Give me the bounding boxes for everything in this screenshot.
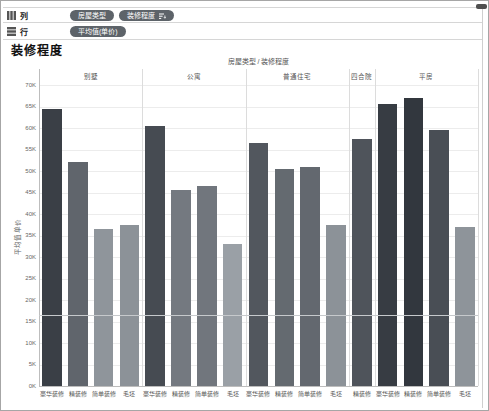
pane-divider — [142, 69, 143, 386]
pill-decoration-degree[interactable]: 装修程度 — [119, 10, 174, 21]
bar-公寓-简单装修[interactable] — [197, 186, 217, 386]
bar-别墅-毛坯[interactable] — [120, 225, 140, 386]
scrollbar-track — [482, 7, 483, 408]
pill-house-type-label: 房屋类型 — [78, 10, 106, 21]
bar-别墅-简单装修[interactable] — [94, 229, 114, 386]
x-axis-line — [39, 386, 478, 387]
pill-house-type[interactable]: 房屋类型 — [70, 10, 114, 21]
chart-column-field-labels: 房屋类型 / 装修程度 — [39, 56, 478, 66]
y-axis-line — [39, 69, 40, 386]
tableau-worksheet: 列 房屋类型 装修程度 行 平均值(单价) 装修程度 房屋类型 / 装修程度平 — [0, 0, 489, 411]
bar-普通住宅-简单装修[interactable] — [300, 167, 320, 386]
bar-平房-精装修[interactable] — [404, 98, 424, 386]
y-tick-label: 30K — [16, 254, 36, 260]
group-header-四合院: 四合院 — [349, 71, 375, 81]
pane-divider — [349, 69, 350, 386]
bar-别墅-豪华装修[interactable] — [42, 109, 62, 386]
y-tick-label: 50K — [16, 168, 36, 174]
columns-shelf-label: 列 — [20, 10, 32, 21]
bar-平房-毛坯[interactable] — [455, 227, 475, 386]
y-tick-label: 60K — [16, 125, 36, 131]
bar-别墅-精装修[interactable] — [68, 162, 88, 386]
pill-avg-unit-price[interactable]: 平均值(单价) — [70, 26, 126, 37]
scrollbar-thumb[interactable] — [476, 4, 487, 9]
y-tick-label: 70K — [16, 82, 36, 88]
pane-divider — [246, 69, 247, 386]
y-gridline — [39, 85, 478, 86]
reference-line — [39, 315, 478, 316]
x-label-毛坯: 毛坯 — [450, 389, 480, 398]
pane-divider — [375, 69, 376, 386]
y-tick-label: 40K — [16, 211, 36, 217]
pane-divider — [478, 69, 479, 386]
y-tick-label: 0K — [16, 383, 36, 389]
group-header-别墅: 别墅 — [39, 71, 142, 81]
bar-公寓-豪华装修[interactable] — [145, 126, 165, 386]
pill-decoration-degree-label: 装修程度 — [127, 10, 155, 21]
y-tick-label: 25K — [16, 275, 36, 281]
group-header-平房: 平房 — [375, 71, 478, 81]
columns-icon — [7, 11, 16, 20]
group-header-公寓: 公寓 — [142, 71, 245, 81]
rows-icon — [7, 27, 16, 36]
bar-平房-豪华装修[interactable] — [378, 104, 398, 386]
bar-普通住宅-精装修[interactable] — [275, 169, 295, 386]
y-tick-label: 35K — [16, 232, 36, 238]
y-tick-label: 15K — [16, 318, 36, 324]
columns-shelf[interactable]: 列 房屋类型 装修程度 — [3, 7, 482, 23]
bar-平房-简单装修[interactable] — [429, 130, 449, 386]
rows-shelf-label: 行 — [20, 26, 32, 37]
rows-shelf[interactable]: 行 平均值(单价) — [3, 24, 482, 40]
bar-公寓-精装修[interactable] — [171, 190, 191, 386]
y-tick-label: 5K — [16, 361, 36, 367]
y-tick-label: 65K — [16, 103, 36, 109]
y-tick-label: 45K — [16, 189, 36, 195]
bar-普通住宅-豪华装修[interactable] — [249, 143, 269, 386]
y-tick-label: 20K — [16, 297, 36, 303]
y-tick-label: 55K — [16, 146, 36, 152]
sort-icon[interactable] — [159, 12, 166, 19]
group-header-普通住宅: 普通住宅 — [246, 71, 349, 81]
pill-avg-unit-price-label: 平均值(单价) — [78, 26, 118, 37]
bar-普通住宅-毛坯[interactable] — [326, 225, 346, 386]
y-tick-label: 10K — [16, 340, 36, 346]
bar-四合院-精装修[interactable] — [352, 139, 372, 386]
